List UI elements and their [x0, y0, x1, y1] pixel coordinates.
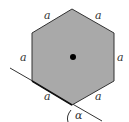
hexagon-diagram: a a a a a a α: [0, 0, 129, 122]
center-dot: [70, 54, 76, 60]
angle-label: α: [75, 109, 83, 122]
side-label-top-left: a: [44, 9, 51, 22]
side-label-bottom-right: a: [95, 90, 102, 103]
side-label-bottom-left: a: [44, 90, 51, 103]
side-label-top-right: a: [95, 9, 102, 22]
angle-arc: [67, 110, 71, 122]
side-label-right: a: [117, 51, 124, 64]
side-label-left: a: [20, 51, 27, 64]
